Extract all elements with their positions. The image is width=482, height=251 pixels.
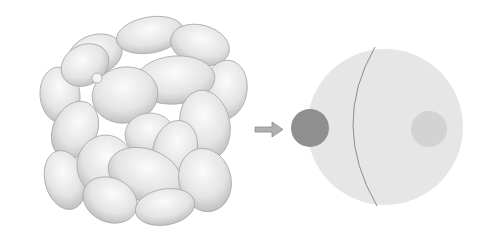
right-arrow-icon (255, 122, 283, 137)
circle-diagram (291, 47, 463, 206)
light-circle (411, 111, 447, 147)
diagram-canvas (0, 0, 482, 251)
succulent-illustration (38, 11, 252, 231)
dark-circle (291, 109, 329, 147)
